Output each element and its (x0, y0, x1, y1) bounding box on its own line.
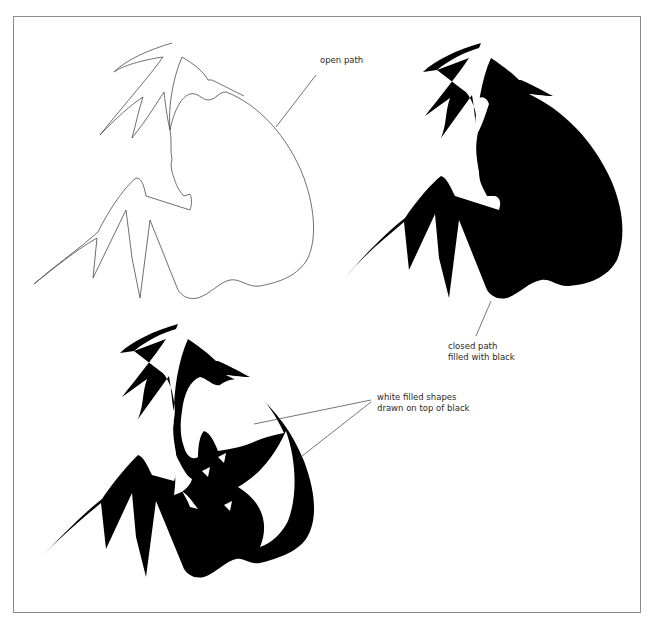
closed-path-caption-line-2: filled with black (448, 352, 515, 363)
closed-path-caption: closed path filled with black (448, 341, 515, 363)
closed-path-caption-line-1: closed path (448, 341, 515, 352)
open-path-caption: open path (320, 55, 363, 66)
closed-path-leader (476, 301, 491, 336)
open-path-leader (276, 75, 316, 127)
white-shapes-leader-2 (297, 402, 371, 460)
illustration-canvas (0, 0, 652, 625)
white-shapes-drawing (42, 324, 314, 578)
white-shapes-caption: white filled shapes drawn on top of blac… (377, 392, 470, 414)
white-shapes-caption-line-2: drawn on top of black (377, 403, 470, 414)
open-path-drawing (34, 43, 314, 299)
white-shapes-caption-line-1: white filled shapes (377, 392, 470, 403)
closed-path-drawing (345, 43, 622, 299)
open-path-caption-line-1: open path (320, 55, 363, 65)
